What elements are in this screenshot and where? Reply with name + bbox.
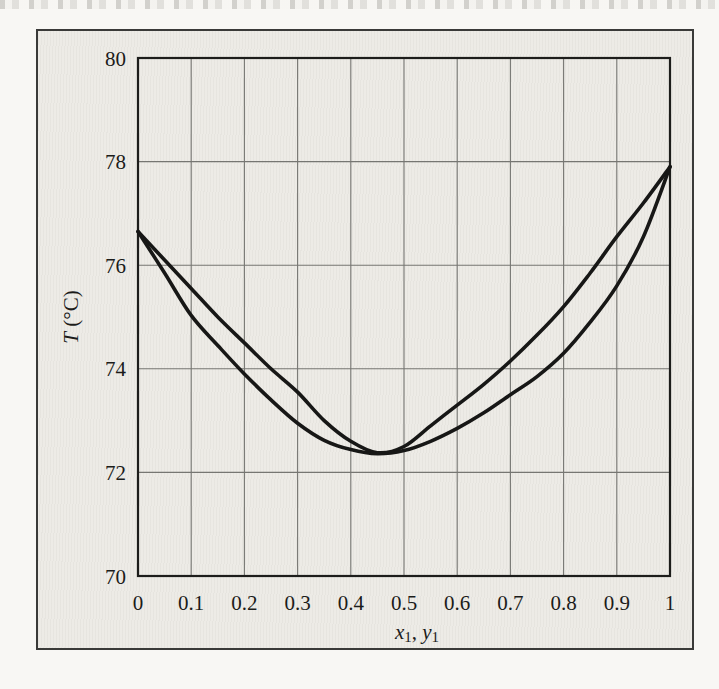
x-axis-symbol-x: x (395, 620, 404, 644)
y-tick-label: 70 (105, 565, 126, 589)
x-tick-label: 0.1 (178, 591, 204, 615)
y-axis-symbol: T (59, 332, 83, 344)
y-tick-label: 74 (105, 357, 127, 381)
x-axis-subscript-y: 1 (432, 629, 440, 645)
x-tick-label: 0.4 (338, 591, 365, 615)
y-tick-label: 72 (105, 461, 126, 485)
x-axis-subscript-x: 1 (404, 629, 412, 645)
x-tick-label: 0.3 (284, 591, 310, 615)
y-tick-label: 80 (105, 47, 126, 71)
y-axis-units: (°C) (59, 290, 83, 326)
y-tick-label: 78 (105, 150, 126, 174)
x-axis-label: x1, y1 (395, 620, 439, 645)
x-tick-label: 0.8 (550, 591, 576, 615)
x-tick-label: 0 (133, 591, 144, 615)
x-axis-symbol-y: y (422, 620, 431, 644)
x-axis-separator: , (412, 620, 423, 644)
txy-plot-canvas: 80787674727000.10.20.30.40.50.60.70.80.9… (0, 0, 719, 689)
x-tick-label: 0.9 (604, 591, 630, 615)
y-tick-label: 76 (105, 254, 126, 278)
x-tick-label: 0.6 (444, 591, 470, 615)
x-tick-label: 0.7 (497, 591, 523, 615)
x-tick-label: 0.2 (231, 591, 257, 615)
x-tick-label: 0.5 (391, 591, 417, 615)
y-axis-label: T (°C) (59, 290, 84, 343)
x-tick-label: 1 (665, 591, 676, 615)
